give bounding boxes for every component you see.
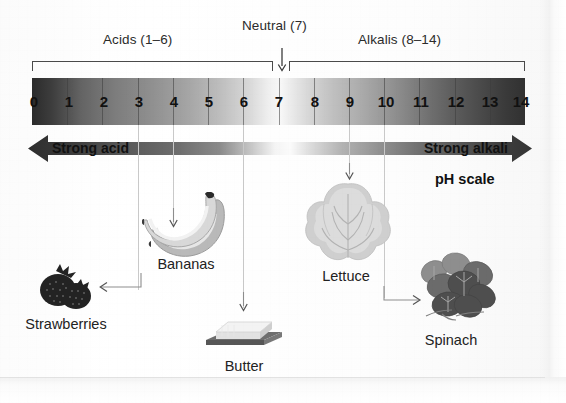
bananas-label: Bananas	[136, 256, 236, 272]
neutral-arrow-icon	[277, 48, 287, 72]
scale-number-13: 13	[475, 93, 505, 110]
strong-alkali-label: Strong alkali	[424, 140, 508, 156]
scale-number-5: 5	[194, 93, 224, 110]
ph-scale-diagram: Acids (1–6) Neutral (7) Alkalis (8–14) 0…	[0, 0, 566, 403]
ph-scale-title: pH scale	[435, 171, 495, 187]
acids-range-label: Acids (1–6)	[103, 32, 172, 47]
paper-edge-bottom	[0, 377, 566, 403]
scale-number-1: 1	[54, 93, 84, 110]
strawberry-icon	[32, 262, 108, 318]
scale-number-9: 9	[335, 93, 365, 110]
spinach-label: Spinach	[406, 332, 496, 348]
butter-leader-arrow	[238, 292, 249, 314]
guide-line-ph6	[243, 125, 244, 308]
scale-number-10: 10	[371, 93, 401, 110]
scale-number-12: 12	[441, 93, 471, 110]
acids-bracket	[32, 61, 273, 71]
neutral-label: Neutral (7)	[242, 18, 307, 33]
lettuce-icon	[302, 180, 394, 270]
scale-number-6: 6	[229, 93, 259, 110]
alkalis-bracket	[289, 61, 525, 71]
scale-number-3: 3	[124, 93, 154, 110]
strawberries-label: Strawberries	[11, 316, 121, 332]
scale-number-11: 11	[406, 93, 436, 110]
butter-label: Butter	[199, 358, 289, 374]
scale-number-2: 2	[89, 93, 119, 110]
butter-icon	[202, 313, 286, 355]
scale-number-14: 14	[506, 93, 536, 110]
lettuce-label: Lettuce	[301, 268, 391, 284]
paper-edge-right	[540, 0, 566, 403]
scale-number-4: 4	[159, 93, 189, 110]
scale-number-0: 0	[19, 93, 49, 110]
alkalis-range-label: Alkalis (8–14)	[358, 32, 441, 47]
strength-arrow-band: Strong acid Strong alkali	[28, 133, 532, 164]
scale-number-7: 7	[264, 93, 294, 110]
banana-icon	[142, 192, 234, 264]
spinach-icon	[412, 252, 504, 334]
strong-acid-label: Strong acid	[52, 140, 129, 156]
scale-number-8: 8	[300, 93, 330, 110]
